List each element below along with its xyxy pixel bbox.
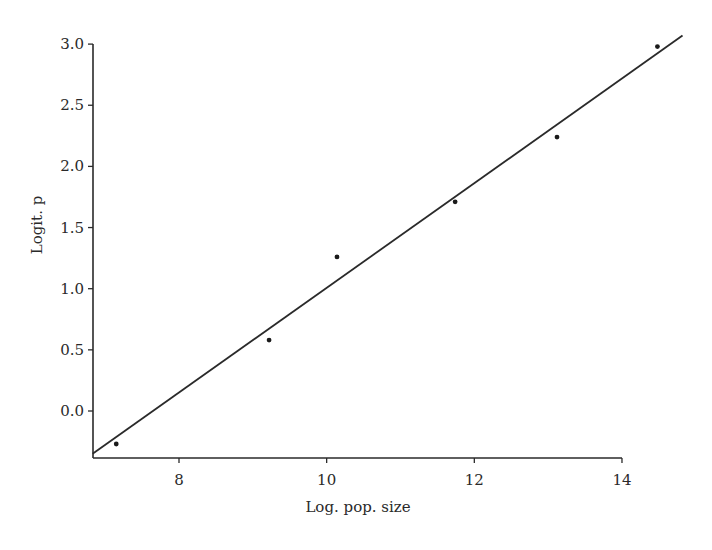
y-tick-label: 2.5 [60,96,84,114]
y-tick-label: 0.0 [60,402,84,420]
data-point [114,442,119,447]
data-point [655,44,660,49]
data-point [335,255,340,260]
x-axis-label: Log. pop. size [305,498,410,516]
x-tick-label: 8 [174,471,184,489]
data-point [267,338,272,343]
y-tick-label: 1.5 [60,219,84,237]
y-tick-label: 1.0 [60,280,84,298]
data-point [555,135,560,140]
y-tick-label: 0.5 [60,341,84,359]
x-axis: 8101214 [93,458,632,489]
data-point [453,199,458,204]
y-tick-label: 3.0 [60,35,84,53]
y-axis: 0.00.51.01.52.02.53.0 [60,35,93,458]
x-tick-label: 10 [317,471,336,489]
y-tick-label: 2.0 [60,157,84,175]
x-tick-label: 14 [612,471,631,489]
y-axis-label: Logit. p [28,196,46,255]
plot-area [93,36,683,454]
scatter-chart: 8101214 0.00.51.01.52.02.53.0 Log. pop. … [0,0,712,550]
x-tick-label: 12 [465,471,484,489]
fitted-regression-line [93,36,683,454]
